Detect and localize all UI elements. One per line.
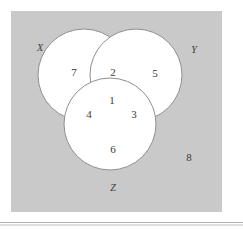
region-label-x-and-y: 2 [110, 67, 116, 78]
set-label-z: Z [110, 183, 116, 193]
region-label-outside: 8 [186, 152, 192, 163]
region-label-y-and-z: 3 [131, 109, 137, 120]
venn-circles [0, 0, 243, 231]
set-label-x: X [37, 43, 43, 53]
page-divider [0, 222, 243, 223]
region-label-z-only: 6 [110, 144, 116, 155]
region-label-x-only: 7 [71, 67, 77, 78]
set-label-y: Y [191, 45, 197, 55]
set-circle-z [64, 78, 156, 170]
venn-diagram-figure: X Y Z 7 2 5 1 4 3 6 8 [0, 0, 243, 231]
region-label-y-only: 5 [152, 68, 158, 79]
page-divider-soft [0, 224, 243, 226]
region-label-x-and-z: 4 [86, 109, 92, 120]
region-label-x-and-y-and-z: 1 [109, 95, 115, 106]
